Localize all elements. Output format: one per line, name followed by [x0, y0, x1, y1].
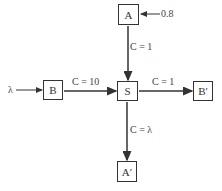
- node-a-prime: A′: [117, 161, 137, 182]
- input-b-label: λ: [8, 84, 13, 95]
- edge-a-s-label: C = 1: [130, 41, 152, 52]
- node-s-label: S: [124, 85, 130, 97]
- node-b-prime: B′: [193, 81, 213, 101]
- node-s: S: [117, 81, 138, 101]
- node-a-prime-label: A′: [122, 166, 132, 178]
- edge-s-aprime-label: C = λ: [130, 124, 152, 135]
- diagram-edges: [0, 0, 222, 191]
- input-a-label: 0.8: [161, 8, 174, 19]
- edge-b-s-label: C = 10: [72, 76, 99, 87]
- node-a-label: A: [125, 9, 133, 21]
- node-b: B: [43, 80, 63, 100]
- node-a: A: [118, 4, 139, 25]
- node-b-label: B: [49, 84, 56, 96]
- edge-s-bprime-label: C = 1: [152, 76, 174, 87]
- node-b-prime-label: B′: [198, 85, 208, 97]
